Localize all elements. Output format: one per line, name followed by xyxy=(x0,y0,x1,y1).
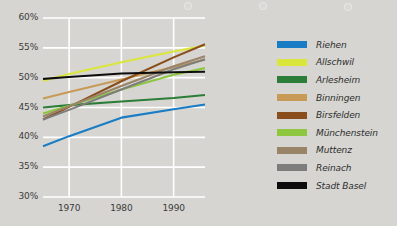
legend-color-swatch xyxy=(277,41,307,48)
legend-color-swatch xyxy=(277,182,307,189)
legend-item[interactable]: Birsfelden xyxy=(277,106,395,124)
series-line-reinach xyxy=(43,59,205,119)
y-tick-label: 60% xyxy=(8,12,38,22)
chart-canvas: 30%35%40%45%50%55%60% 197019801990 Riehe… xyxy=(0,0,397,226)
y-tick-label: 30% xyxy=(8,191,38,201)
legend-item-label: Arlesheim xyxy=(316,75,360,85)
legend-color-swatch xyxy=(277,129,307,136)
legend-item[interactable]: Münchenstein xyxy=(277,124,395,142)
y-tick-label: 50% xyxy=(8,72,38,82)
y-tick-label: 35% xyxy=(8,161,38,171)
legend-item-label: Stadt Basel xyxy=(316,181,366,191)
legend-item-label: Münchenstein xyxy=(316,128,378,138)
legend-item-label: Riehen xyxy=(316,40,347,50)
x-tick-label: 1990 xyxy=(154,203,194,213)
legend-item-label: Birsfelden xyxy=(316,110,360,120)
legend-color-swatch xyxy=(277,76,307,83)
legend-item-label: Muttenz xyxy=(316,145,352,155)
legend-item[interactable]: Riehen xyxy=(277,36,395,54)
x-tick-label: 1980 xyxy=(101,203,141,213)
legend-item-label: Binningen xyxy=(316,93,360,103)
legend-item-label: Reinach xyxy=(316,163,351,173)
legend-color-swatch xyxy=(277,112,307,119)
legend-item[interactable]: Reinach xyxy=(277,159,395,177)
legend-item[interactable]: Binningen xyxy=(277,89,395,107)
legend-color-swatch xyxy=(277,59,307,66)
legend-color-swatch xyxy=(277,164,307,171)
legend-item[interactable]: Muttenz xyxy=(277,142,395,160)
legend-color-swatch xyxy=(277,94,307,101)
y-tick-label: 45% xyxy=(8,102,38,112)
y-tick-label: 55% xyxy=(8,42,38,52)
legend-item[interactable]: Stadt Basel xyxy=(277,177,395,195)
legend-item[interactable]: Allschwil xyxy=(277,54,395,72)
chart-legend: RiehenAllschwilArlesheimBinningenBirsfel… xyxy=(277,36,395,194)
legend-item[interactable]: Arlesheim xyxy=(277,71,395,89)
legend-color-swatch xyxy=(277,147,307,154)
x-tick-label: 1970 xyxy=(49,203,89,213)
y-tick-label: 40% xyxy=(8,131,38,141)
legend-item-label: Allschwil xyxy=(316,57,354,67)
